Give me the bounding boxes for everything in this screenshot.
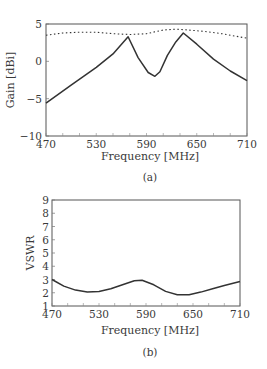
- series-line: [46, 29, 247, 38]
- series-line: [52, 280, 240, 295]
- caption: (b): [143, 346, 158, 358]
- y-tick-label: 6: [42, 234, 49, 246]
- x-axis-title: Frequency [MHz]: [101, 150, 199, 163]
- y-tick-label: 5: [35, 18, 42, 30]
- y-tick-label: 3: [42, 274, 49, 286]
- x-axis-title: Frequency [MHz]: [101, 324, 199, 337]
- x-tick-label: 590: [136, 308, 156, 320]
- x-tick-label: 590: [136, 138, 156, 150]
- y-tick-label: 4: [42, 260, 49, 272]
- plot-frame: [52, 200, 240, 306]
- y-ticks: 50−5−10: [20, 18, 49, 142]
- x-tick-label: 470: [36, 138, 56, 150]
- x-tick-label: 710: [237, 138, 257, 150]
- plot-frame: [46, 24, 247, 136]
- y-ticks: 987654321: [42, 194, 55, 312]
- caption: (a): [143, 171, 157, 183]
- vswr-chart: 987654321 470530590650710 Frequency [MHz…: [24, 194, 250, 358]
- y-tick-label: 0: [35, 55, 42, 67]
- y-tick-label: 5: [42, 247, 49, 259]
- x-tick-label: 710: [230, 308, 250, 320]
- y-tick-label: 8: [42, 207, 49, 219]
- y-tick-label: 9: [42, 194, 49, 206]
- x-tick-label: 650: [187, 138, 207, 150]
- y-axis-title: Gain [dBi]: [4, 52, 17, 109]
- series-line: [46, 33, 247, 103]
- gain-chart: 50−5−10 470530590650710 Frequency [MHz] …: [4, 18, 257, 183]
- y-tick-label: −5: [27, 93, 42, 105]
- y-tick-label: 2: [42, 287, 49, 299]
- y-axis-title: VSWR: [24, 235, 37, 272]
- figure: 50−5−10 470530590650710 Frequency [MHz] …: [0, 0, 267, 369]
- y-tick-label: 7: [42, 221, 49, 233]
- x-tick-label: 650: [183, 308, 203, 320]
- series: [46, 29, 247, 103]
- series: [52, 280, 240, 295]
- x-tick-label: 530: [86, 138, 106, 150]
- x-tick-label: 470: [42, 308, 62, 320]
- x-tick-label: 530: [89, 308, 109, 320]
